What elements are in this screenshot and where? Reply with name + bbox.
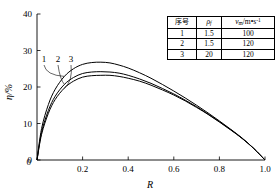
y-tick-label-1: 10 (23, 119, 33, 129)
legend-header-vm: vm/m•s-1 (222, 17, 275, 29)
curve-tag-labels: 123 (42, 54, 74, 64)
rho-subscript: f (210, 20, 212, 26)
x-axis-ticks (83, 157, 265, 161)
leader-line-2 (58, 65, 64, 84)
legend-row: 21.5120 (168, 39, 275, 50)
chart-figure: 010203040 00.20.40.60.81.0 123 R η/% 序号 … (0, 0, 280, 194)
x-tick-label-1: 0.2 (77, 164, 88, 174)
legend-cell-vm: 120 (222, 39, 275, 50)
legend-cell-vm: 120 (222, 49, 275, 60)
x-tick-label-0: 0 (27, 157, 32, 167)
legend-header-index: 序号 (168, 17, 197, 29)
y-axis-tick-labels: 010203040 (23, 9, 33, 165)
leader-line-1 (44, 65, 64, 76)
legend-cell-index: 1 (168, 28, 197, 39)
curve-tag-1: 1 (42, 54, 47, 64)
legend-row: 11.5100 (168, 28, 275, 39)
x-tick-label-2: 0.4 (123, 164, 135, 174)
legend-table: 序号 ρf vm/m•s-1 11.510021.5120320120 (167, 16, 275, 60)
y-axis-label: η/% (3, 84, 14, 100)
data-curves (37, 62, 265, 160)
legend-cell-vm: 100 (222, 28, 275, 39)
legend-header-row: 序号 ρf vm/m•s-1 (168, 17, 275, 29)
y-tick-label-4: 40 (23, 9, 33, 19)
legend-cell-index: 3 (168, 49, 197, 60)
legend-row: 320120 (168, 49, 275, 60)
x-axis-label: R (146, 179, 153, 190)
legend-cell-rho: 1.5 (197, 39, 222, 50)
v-units-exponent: -1 (256, 17, 261, 23)
v-units: /m•s (243, 17, 256, 26)
curve-1 (37, 62, 265, 160)
x-tick-label-3: 0.6 (168, 164, 180, 174)
y-tick-label-2: 20 (23, 82, 33, 92)
curve-3 (37, 75, 265, 160)
legend-cell-rho: 20 (197, 49, 222, 60)
x-tick-label-5: 1.0 (259, 164, 271, 174)
y-tick-label-3: 30 (23, 46, 33, 56)
curve-tag-2: 2 (56, 54, 61, 64)
curve-tag-3: 3 (69, 54, 74, 64)
leader-line-3 (64, 65, 71, 88)
legend-cell-rho: 1.5 (197, 28, 222, 39)
x-tick-label-4: 0.8 (214, 164, 226, 174)
legend-header-rho: ρf (197, 17, 222, 29)
legend-cell-index: 2 (168, 39, 197, 50)
